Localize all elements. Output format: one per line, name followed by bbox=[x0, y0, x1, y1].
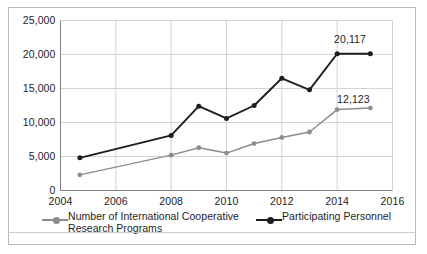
legend-label-participating-personnel: Participating Personnel bbox=[282, 211, 391, 223]
data-point bbox=[279, 135, 284, 140]
legend-label-research-programs: Number of International Cooperative Rese… bbox=[68, 211, 239, 234]
y-axis-tick-label: 20,000 bbox=[23, 48, 56, 60]
legend-item-participating-personnel[interactable]: Participating Personnel bbox=[256, 211, 391, 226]
data-label-participating-personnel: 20,117 bbox=[334, 33, 366, 45]
legend-item-research-programs[interactable]: Number of International Cooperative Rese… bbox=[42, 211, 239, 234]
data-point bbox=[77, 155, 82, 160]
y-axis-tick-label: 10,000 bbox=[23, 116, 56, 128]
y-axis-tick-label: 5,000 bbox=[29, 150, 56, 162]
data-point bbox=[368, 51, 373, 56]
data-point bbox=[224, 116, 229, 121]
legend-marker-icon-research-programs bbox=[42, 214, 68, 226]
chart-figure: 05,00010,00015,00020,00025,0002004200620… bbox=[0, 0, 427, 254]
legend-label-line1: Number of International Cooperative bbox=[68, 210, 239, 222]
data-point bbox=[252, 103, 257, 108]
data-point bbox=[169, 153, 174, 158]
data-point bbox=[307, 87, 312, 92]
data-point bbox=[335, 51, 340, 56]
data-label-research-programs: 12,123 bbox=[337, 93, 370, 105]
y-axis-tick-label: 15,000 bbox=[23, 82, 56, 94]
legend-divider bbox=[8, 232, 416, 233]
chart-legend: Number of International Cooperative Rese… bbox=[8, 205, 416, 245]
y-axis-tick-label: 25,000 bbox=[23, 14, 56, 26]
data-point bbox=[224, 151, 229, 156]
data-point bbox=[335, 107, 340, 112]
data-point bbox=[196, 145, 201, 150]
data-point bbox=[368, 106, 373, 111]
data-point bbox=[196, 104, 201, 109]
legend-label-line1: Participating Personnel bbox=[282, 210, 391, 222]
data-point bbox=[307, 130, 312, 135]
data-point bbox=[77, 172, 82, 177]
data-point bbox=[279, 76, 284, 81]
legend-marker-icon-participating-personnel bbox=[256, 214, 282, 226]
data-point bbox=[252, 141, 257, 146]
data-point bbox=[169, 133, 174, 138]
